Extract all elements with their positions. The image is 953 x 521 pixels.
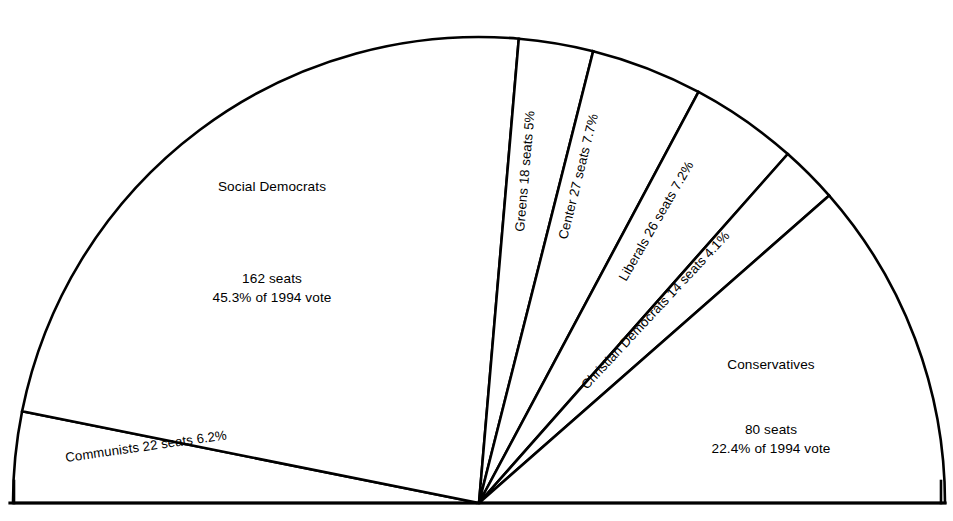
seat-diagram-svg: Communists 22 seats 6.2%Social Democrats… bbox=[0, 0, 953, 521]
slice-vote-share-conservatives: 22.4% of 1994 vote bbox=[712, 441, 831, 456]
slice-label-conservatives: Conservatives bbox=[727, 357, 815, 372]
slice-label-social-democrats: Social Democrats bbox=[218, 179, 326, 194]
wedge-group bbox=[13, 37, 945, 503]
chart-page: Communists 22 seats 6.2%Social Democrats… bbox=[0, 0, 953, 521]
slice-seats-social-democrats: 162 seats bbox=[242, 271, 302, 286]
slice-seats-conservatives: 80 seats bbox=[745, 422, 797, 437]
slice-vote-share-social-democrats: 45.3% of 1994 vote bbox=[213, 290, 332, 305]
